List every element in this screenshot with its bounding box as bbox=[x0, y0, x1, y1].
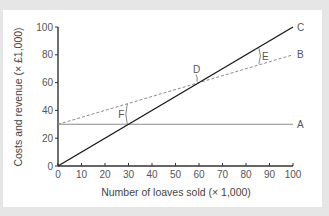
y-tick-label: 80 bbox=[42, 49, 54, 60]
x-tick-label: 100 bbox=[285, 169, 302, 180]
x-tick-label: 30 bbox=[123, 169, 135, 180]
chart-lines: ABC bbox=[58, 22, 304, 167]
series-line-c bbox=[58, 27, 293, 166]
y-axis-title: Costs and revenue (× £1,000) bbox=[12, 27, 24, 166]
x-tick-label: 70 bbox=[217, 169, 229, 180]
x-tick-label: 60 bbox=[193, 169, 205, 180]
x-tick-label: 80 bbox=[240, 169, 252, 180]
y-tick-label: 40 bbox=[42, 105, 54, 116]
annotation-d-pointer bbox=[196, 75, 197, 82]
annotation-f-bracket bbox=[126, 104, 128, 125]
series-label-c: C bbox=[297, 22, 304, 33]
x-tick-label: 90 bbox=[264, 169, 276, 180]
y-tick-label: 60 bbox=[42, 77, 54, 88]
annotation-e-bracket bbox=[259, 48, 261, 64]
y-tick-label: 0 bbox=[47, 161, 53, 172]
annotation-d-label: D bbox=[193, 64, 200, 75]
x-tick-label: 10 bbox=[76, 169, 88, 180]
x-tick-label: 50 bbox=[170, 169, 182, 180]
annotation-e-label: E bbox=[262, 51, 269, 62]
x-tick-label: 0 bbox=[55, 169, 61, 180]
x-tick-label: 20 bbox=[99, 169, 111, 180]
x-axis-title: Number of loaves sold (× 1,000) bbox=[101, 186, 251, 198]
series-label-b: B bbox=[297, 49, 304, 60]
series-label-a: A bbox=[297, 119, 304, 130]
x-tick-label: 40 bbox=[146, 169, 158, 180]
y-tick-label: 100 bbox=[36, 22, 53, 33]
series-line-b bbox=[58, 55, 293, 125]
break-even-chart: 0204060801000102030405060708090100 ABC D… bbox=[0, 0, 329, 216]
y-tick-label: 20 bbox=[42, 133, 54, 144]
annotation-f-label: F bbox=[118, 109, 124, 120]
